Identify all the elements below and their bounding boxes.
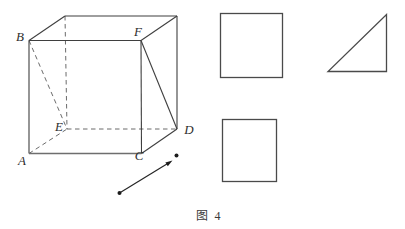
cube-hidden-edges: [29, 16, 177, 154]
side-shapes: [221, 14, 387, 182]
figure-caption: 图 4: [196, 209, 223, 223]
vertex-label-b: B: [16, 29, 24, 44]
geometry-figure: A B C D E F 图 4: [0, 0, 405, 229]
cube-edge-f-backtopright: [141, 16, 177, 41]
vector-end-dot: [175, 154, 179, 158]
vector-arrowhead-icon: [165, 161, 172, 167]
vertex-label-a: A: [17, 153, 26, 168]
cube-diagonal-f-d: [141, 41, 177, 130]
bottom-square: [223, 120, 277, 182]
cube-edge-b-backtopleft: [29, 16, 65, 41]
vector-arrow: [118, 154, 179, 196]
vertex-label-c: C: [135, 148, 144, 163]
cube-edge-f-c: [141, 41, 142, 154]
top-square: [221, 14, 283, 78]
vector-arrow-shaft: [120, 163, 169, 193]
cube-edge-c-d: [142, 129, 178, 154]
vertex-label-e: E: [54, 119, 63, 134]
cube-diagonal-b-e: [29, 41, 67, 130]
cube-edge-backtopleft-e: [65, 16, 67, 129]
vertex-label-d: D: [183, 122, 194, 137]
cube-vertex-labels: A B C D E F: [16, 24, 194, 168]
vertex-label-f: F: [133, 24, 143, 39]
figure-svg: A B C D E F 图 4: [0, 0, 405, 229]
cube-solid-edges: [29, 16, 177, 154]
right-triangle: [328, 15, 387, 72]
vector-start-dot: [118, 191, 122, 195]
